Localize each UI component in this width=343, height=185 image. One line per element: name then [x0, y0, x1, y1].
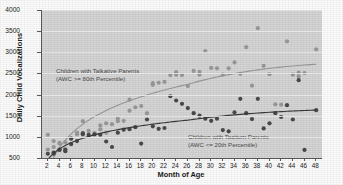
data-point: [232, 110, 236, 114]
data-point: [139, 142, 143, 146]
data-point: [52, 145, 56, 149]
data-point: [63, 149, 67, 153]
annotation-taciturn-line2: (AWC <= 20th Percentile): [188, 141, 269, 149]
y-axis-tick-mark: [37, 137, 41, 138]
x-axis-tick-mark: [152, 158, 153, 161]
gridline: [42, 95, 322, 96]
y-axis-tick-mark: [37, 73, 41, 74]
scatter-canvas: [42, 10, 322, 158]
data-point: [262, 64, 266, 68]
annotation-talkative: Children with Talkative Parents (AWC >= …: [56, 67, 139, 83]
y-axis-tick-label: 4000: [0, 6, 20, 13]
data-point: [122, 119, 126, 123]
data-point: [250, 117, 254, 121]
y-axis-tick-label: 2000: [0, 91, 20, 98]
data-point: [250, 84, 254, 88]
data-point: [75, 132, 79, 136]
data-point: [285, 39, 289, 43]
data-point: [110, 122, 114, 126]
y-axis-tick-mark: [37, 31, 41, 32]
data-point: [46, 147, 50, 151]
data-point: [279, 103, 283, 107]
data-point: [285, 103, 289, 107]
x-axis-tick-mark: [70, 158, 71, 161]
x-axis-tick-mark: [315, 158, 316, 161]
x-axis-tick-mark: [164, 158, 165, 161]
x-axis-tick-label: 48: [308, 162, 322, 169]
x-axis-tick-mark: [234, 158, 235, 161]
gridline: [42, 52, 322, 53]
x-axis-tick-mark: [59, 158, 60, 161]
data-point: [215, 66, 219, 70]
y-axis-tick-label: 3000: [0, 49, 20, 56]
y-axis-tick-label: 2500: [0, 70, 20, 77]
x-axis-tick-mark: [257, 158, 258, 161]
data-point: [139, 104, 143, 108]
data-point: [192, 111, 196, 115]
data-point: [186, 106, 190, 110]
x-axis-tick-mark: [222, 158, 223, 161]
data-point: [232, 60, 236, 64]
x-axis-title: Month of Age: [41, 170, 321, 179]
gridline: [42, 116, 322, 117]
x-axis-tick-mark: [117, 158, 118, 161]
annotation-taciturn: Children with Taciturn Parents (AWC <= 2…: [188, 133, 269, 149]
data-point: [157, 127, 161, 131]
y-axis-title: Daily Child Vocalizations: [15, 3, 24, 153]
y-axis-tick-label: 500: [0, 154, 20, 161]
y-axis-tick-mark: [37, 52, 41, 53]
data-point: [256, 97, 260, 101]
data-point: [291, 117, 295, 121]
series-group: [46, 78, 319, 158]
data-point: [162, 80, 166, 84]
x-axis-tick-mark: [245, 158, 246, 161]
data-point: [192, 69, 196, 73]
data-point: [162, 126, 166, 130]
data-point: [256, 26, 260, 30]
y-axis-tick-label: 3500: [0, 28, 20, 35]
data-point: [104, 139, 108, 143]
plot-area: Children with Talkative Parents (AWC >= …: [41, 10, 322, 159]
data-point: [116, 131, 120, 135]
data-point: [116, 119, 120, 123]
x-axis-tick-mark: [129, 158, 130, 161]
data-point: [104, 121, 108, 125]
x-axis-tick-mark: [175, 158, 176, 161]
data-point: [221, 128, 225, 132]
data-point: [267, 121, 271, 125]
gridline: [42, 73, 322, 74]
data-point: [110, 145, 114, 149]
data-point: [145, 117, 149, 121]
data-point: [174, 98, 178, 102]
series-group: [46, 26, 319, 158]
data-point: [262, 126, 266, 130]
data-point: [133, 105, 137, 109]
x-axis-tick-mark: [105, 158, 106, 161]
data-point: [81, 132, 85, 136]
data-point: [127, 109, 131, 113]
data-point: [98, 127, 102, 131]
data-point: [302, 148, 306, 152]
data-point: [297, 74, 301, 78]
x-axis-tick-mark: [82, 158, 83, 161]
y-axis-tick-mark: [37, 10, 41, 11]
data-point: [227, 66, 231, 70]
data-point: [145, 111, 149, 115]
annotation-talkative-line2: (AWC >= 80th Percentile): [56, 75, 139, 83]
x-axis-tick-mark: [199, 158, 200, 161]
data-point: [238, 97, 242, 101]
data-point: [297, 78, 301, 82]
data-point: [273, 102, 277, 106]
x-axis-tick-mark: [292, 158, 293, 161]
x-axis-tick-mark: [140, 158, 141, 161]
data-point: [209, 66, 213, 70]
data-point: [244, 45, 248, 49]
y-axis-tick-mark: [37, 116, 41, 117]
data-point: [151, 83, 155, 87]
data-point: [314, 47, 318, 51]
data-point: [46, 152, 50, 156]
data-point: [98, 123, 102, 127]
y-axis-tick-mark: [37, 158, 41, 159]
gridline: [42, 31, 322, 32]
x-axis-tick-mark: [280, 158, 281, 161]
